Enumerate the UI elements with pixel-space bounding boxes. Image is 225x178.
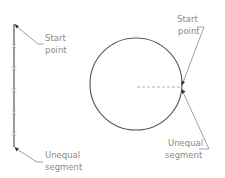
start-point-leader — [15, 24, 45, 44]
right-start-label-line2: point — [178, 26, 200, 36]
unequal-segment-leader-left — [15, 147, 44, 162]
diagram-canvas: Start point Unequal segment Start point … — [0, 0, 225, 178]
left-start-label-line1: Start — [45, 33, 66, 43]
left-start-label-line2: point — [45, 45, 67, 55]
right-unequal-label-line2: segment — [165, 150, 203, 160]
right-start-label-line1: Start — [177, 14, 198, 24]
divided-line-figure: Start point Unequal segment — [12, 24, 83, 172]
left-unequal-label-line1: Unequal — [45, 150, 80, 160]
right-unequal-label-line1: Unequal — [168, 138, 203, 148]
circle — [90, 38, 182, 130]
divided-circle-figure: Start point Unequal segment — [90, 14, 209, 160]
left-unequal-label-line2: segment — [45, 162, 83, 172]
